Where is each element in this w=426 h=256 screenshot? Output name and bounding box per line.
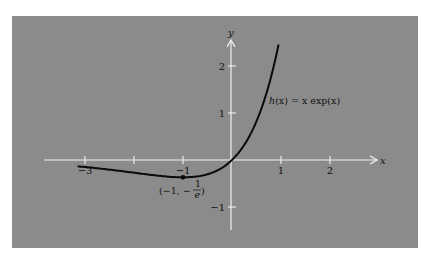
y-ticks: −112 [210, 61, 236, 213]
x-tick-label: −1 [176, 165, 191, 176]
x-ticks: −3−112 [78, 156, 334, 176]
svg-text:e: e [195, 189, 201, 200]
function-curve [78, 45, 279, 178]
y-tick-label: 1 [219, 108, 225, 119]
minimum-point-marker [181, 175, 186, 180]
x-tick-label: 2 [327, 165, 333, 176]
y-axis-label: y [227, 27, 234, 38]
svg-text:(−1, −: (−1, − [159, 185, 191, 196]
minimum-point-label: (−1, − 1 e ) [159, 178, 205, 200]
x-axis-label: x [380, 155, 386, 166]
curve-label: h(x) = x exp(x) [269, 95, 340, 106]
x-tick-label: 1 [278, 165, 284, 176]
y-tick-label: 2 [219, 61, 225, 72]
y-tick-label: −1 [210, 202, 225, 213]
svg-text:): ) [201, 185, 205, 196]
function-chart: −3−112 −112 x y h(x) = x exp(x) (−1, − 1… [0, 0, 426, 256]
